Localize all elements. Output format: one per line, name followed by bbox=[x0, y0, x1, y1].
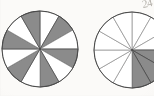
right-fraction-circle bbox=[94, 12, 154, 88]
circle-center-point bbox=[39, 48, 41, 50]
left-fraction-circle bbox=[2, 11, 78, 87]
fraction-circles-svg bbox=[0, 0, 154, 96]
circle-center-point bbox=[131, 49, 133, 51]
fraction-circles-figure: 24 bbox=[0, 0, 154, 96]
scanned-page-background: 24 bbox=[0, 0, 154, 96]
